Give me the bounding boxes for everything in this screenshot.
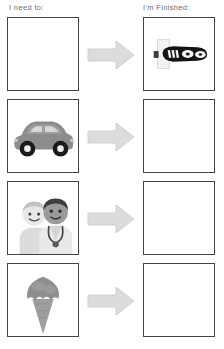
finished-slot[interactable] [143, 181, 215, 255]
finished-slot[interactable] [143, 17, 215, 91]
right-arrow-icon [86, 285, 136, 317]
schedule-rows [0, 15, 224, 343]
schedule-row [0, 15, 224, 96]
right-arrow-icon [86, 39, 136, 71]
column-header-need-to: I need to: [9, 3, 44, 12]
right-arrow-icon [86, 121, 136, 153]
need-to-slot[interactable] [7, 17, 79, 91]
schedule-row [0, 179, 224, 260]
doctor-and-patient-icon [8, 182, 78, 254]
ice-cream-cone-icon [8, 264, 78, 336]
column-header-im-finished: I'm Finished: [143, 3, 190, 12]
need-to-slot[interactable] [7, 263, 79, 337]
visual-schedule-board: I need to: I'm Finished: [0, 0, 224, 349]
schedule-row [0, 97, 224, 178]
column-headers: I need to: I'm Finished: [0, 0, 224, 16]
finished-slot[interactable] [143, 99, 215, 173]
finished-slot[interactable] [143, 263, 215, 337]
need-to-slot[interactable] [7, 99, 79, 173]
right-arrow-icon [86, 203, 136, 235]
need-to-slot[interactable] [7, 181, 79, 255]
schedule-row [0, 261, 224, 342]
car-icon [8, 100, 78, 172]
dark-vehicle-icon [144, 18, 214, 90]
